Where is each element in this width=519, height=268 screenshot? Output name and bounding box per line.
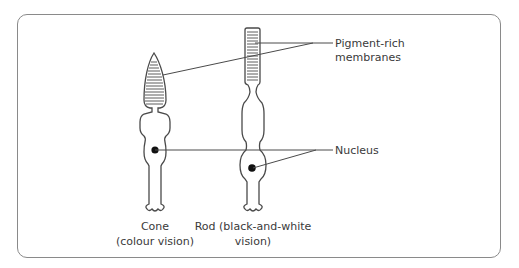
photoreceptor-diagram: Pigment-rich membranes Nucleus Cone (col… [0, 0, 519, 268]
leader-lines [155, 43, 333, 168]
pigment-leader-cone [163, 43, 313, 75]
cone-caption-line1: Cone [141, 220, 169, 233]
pigment-label-line2: membranes [335, 51, 401, 64]
rod-caption-line2: vision) [235, 235, 271, 248]
pigment-label-line1: Pigment-rich [335, 37, 405, 50]
nucleus-label: Nucleus [335, 144, 379, 157]
rod-caption-line1: Rod (black-and-white [195, 220, 312, 233]
cone-caption-line2: (colour vision) [116, 235, 194, 248]
cone-cell [140, 53, 170, 211]
